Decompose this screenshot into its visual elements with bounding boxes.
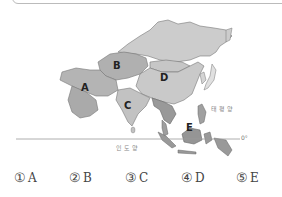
region-label-a: A: [81, 82, 89, 93]
asia-map: A B C D E 태평양 인도양 0°: [0, 0, 282, 160]
region-label-e: E: [186, 122, 193, 133]
choice-label: E: [250, 171, 259, 185]
answer-choices: ① A ② B ③ C ④ D ⑤ E: [0, 170, 282, 190]
choice-label: D: [195, 171, 205, 185]
choice-label: A: [28, 171, 37, 185]
choice-2[interactable]: ② B: [69, 170, 92, 185]
region-label-d: D: [160, 72, 168, 83]
choice-1[interactable]: ① A: [14, 170, 37, 185]
pacific-ocean-label: 태평양: [211, 104, 235, 113]
choice-number: ①: [14, 170, 26, 185]
asia-map-graphic: [0, 0, 282, 160]
region-label-b: B: [113, 60, 121, 71]
choice-number: ③: [125, 170, 137, 185]
choice-label: B: [83, 171, 92, 185]
region-label-c: C: [124, 100, 131, 111]
choice-number: ②: [69, 170, 81, 185]
choice-number: ⑤: [236, 170, 248, 185]
choice-number: ④: [181, 170, 193, 185]
choice-3[interactable]: ③ C: [125, 170, 148, 185]
choice-label: C: [139, 171, 148, 185]
indian-ocean-label: 인도양: [116, 143, 140, 152]
choice-4[interactable]: ④ D: [181, 170, 205, 185]
equator-label: 0°: [241, 134, 248, 141]
choice-5[interactable]: ⑤ E: [236, 170, 259, 185]
